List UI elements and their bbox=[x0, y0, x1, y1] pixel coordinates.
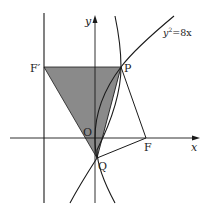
point-F-label: F bbox=[144, 141, 152, 154]
x-axis-arrow-icon bbox=[192, 136, 200, 141]
origin-label: O bbox=[83, 126, 92, 139]
point-Q-label: Q bbox=[98, 160, 107, 173]
segment-Q-F bbox=[97, 138, 146, 158]
diagram-canvas: y x O F′ P F Q y2=8x bbox=[0, 0, 211, 214]
segment-P-F bbox=[121, 67, 146, 138]
point-Fprime-label: F′ bbox=[30, 62, 41, 75]
point-P-label: P bbox=[124, 62, 132, 75]
x-axis-label: x bbox=[191, 141, 198, 154]
y-axis-label: y bbox=[84, 15, 92, 28]
y-axis-arrow-icon bbox=[93, 15, 98, 23]
parabola-equation-label: y2=8x bbox=[162, 26, 192, 38]
